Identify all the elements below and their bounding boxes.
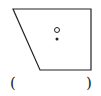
solid-dot-point <box>56 38 59 41</box>
hollow-circle-point <box>55 28 60 33</box>
left-parenthesis: ( <box>10 76 16 91</box>
right-parenthesis: ) <box>86 76 92 91</box>
trapezoid-shape <box>13 9 91 70</box>
